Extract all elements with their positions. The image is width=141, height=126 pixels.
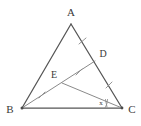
label-angle-x: x	[99, 99, 103, 107]
label-d: D	[99, 48, 106, 59]
segment-ec	[62, 83, 122, 108]
geometry-canvas: A B C D E x	[0, 0, 141, 126]
vertex-dot-b	[21, 107, 24, 110]
vertex-dot-c	[121, 107, 124, 110]
geometry-figure: A B C D E x	[0, 0, 141, 126]
label-b: B	[6, 103, 13, 115]
label-c: C	[128, 103, 135, 115]
segment-ac	[71, 24, 122, 108]
segment-bd	[22, 61, 95, 108]
label-e: E	[51, 69, 57, 80]
label-a: A	[67, 6, 75, 18]
tick-mark-ed	[76, 69, 82, 75]
segment-ab	[22, 24, 71, 108]
tick-mark-be	[39, 92, 45, 98]
